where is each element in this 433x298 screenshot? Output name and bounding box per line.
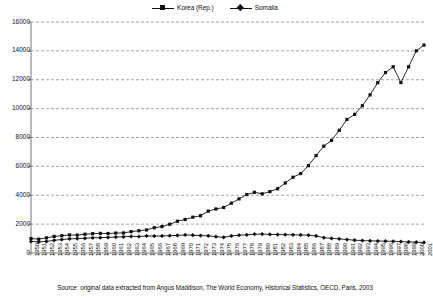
x-tick-label: 1980 [265,243,271,256]
y-tick-label: 6000 [0,163,30,170]
x-tick-label: 1992 [357,243,363,256]
x-tick-label: 1961 [118,243,124,256]
y-tick-label: 16000 [0,19,30,26]
x-tick-label: 1972 [203,243,209,256]
x-tick-label: 1951 [41,243,47,256]
x-tick-label: 1968 [172,243,178,256]
x-tick-label: 1966 [157,243,163,256]
y-tick-label: 2000 [0,221,30,228]
x-tick-label: 1991 [350,243,356,256]
x-tick-label: 1970 [188,243,194,256]
x-tick-label: 1950 [34,243,40,256]
x-tick-label: 1956 [80,243,86,256]
x-tick-label: 1971 [195,243,201,256]
x-tick-label: 1964 [141,243,147,256]
x-tick-label: 1969 [180,243,186,256]
source-note: Source: original data extracted from Ang… [0,285,430,291]
y-tick-label: 8000 [0,134,30,141]
x-tick-label: 1955 [72,243,78,256]
x-tick-label: 1989 [334,243,340,256]
gridlines [31,22,424,224]
series-line-korea [29,44,425,241]
x-tick-label: 1975 [226,243,232,256]
y-tick-label: 12000 [0,76,30,83]
x-tick-label: 1959 [103,243,109,256]
y-tick-label: 10000 [0,105,30,112]
x-tick-label: 1963 [134,243,140,256]
y-tick-label: 0 [0,250,30,257]
x-tick-label: 1997 [396,243,402,256]
x-tick-label: 1990 [342,243,348,256]
x-tick-label: 1977 [242,243,248,256]
x-tick-label: 1976 [234,243,240,256]
x-tick-label: 1973 [211,243,217,256]
x-tick-label: 1993 [365,243,371,256]
x-tick-label: 1974 [219,243,225,256]
x-tick-label: 1979 [257,243,263,256]
x-tick-label: 1983 [288,243,294,256]
x-tick-label: 1986 [311,243,317,256]
x-tick-label: 1998 [403,243,409,256]
x-tick-label: 1988 [326,243,332,256]
x-tick-label: 1982 [280,243,286,256]
y-tick-label: 4000 [0,192,30,199]
x-tick-label: 1954 [64,243,70,256]
x-tick-label: 1965 [149,243,155,256]
x-tick-label: 2001 [427,243,433,256]
x-tick-label: 1952 [49,243,55,256]
x-tick-label: 1953 [57,243,63,256]
x-tick-label: 1999 [411,243,417,256]
x-tick-label: 1958 [95,243,101,256]
x-tick-label: 1987 [319,243,325,256]
x-tick-label: 1985 [303,243,309,256]
x-tick-label: 1996 [388,243,394,256]
x-tick-label: 2000 [419,243,425,256]
x-tick-label: 1994 [373,243,379,256]
x-tick-label: 1962 [126,243,132,256]
x-tick-label: 1981 [272,243,278,256]
x-tick-label: 1995 [380,243,386,256]
x-tick-label: 1978 [249,243,255,256]
x-tick-label: 1984 [296,243,302,256]
x-tick-label: 1957 [88,243,94,256]
y-tick-label: 14000 [0,47,30,54]
x-tick-label: 1967 [165,243,171,256]
x-tick-label: 1960 [111,243,117,256]
